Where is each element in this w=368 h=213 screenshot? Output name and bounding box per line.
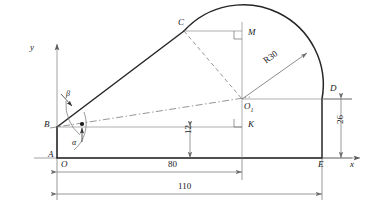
point-label-A: A: [48, 150, 54, 159]
point-label-K: K: [248, 120, 254, 129]
angle-label-beta: β: [66, 90, 70, 98]
construction-lines: [57, 22, 352, 158]
node-dot: [80, 122, 84, 126]
centerlines: [50, 97, 250, 128]
origin-label: O: [61, 160, 68, 169]
point-label-D: D: [330, 84, 337, 93]
dimension-label-12: 12: [184, 125, 193, 134]
angle-label-alpha: α: [72, 139, 76, 147]
centerline-B-O1: [50, 97, 250, 128]
arc-R30: [184, 5, 323, 99]
line-C-O1: [184, 31, 242, 99]
dimension-label-110: 110: [178, 182, 191, 191]
right-angle-markers: [234, 31, 242, 127]
point-label-M: M: [248, 28, 256, 37]
point-label-B: B: [44, 120, 50, 129]
curve-BC: [57, 31, 184, 127]
right-angle-K: [234, 119, 242, 127]
y-axis-label: y: [30, 43, 34, 52]
point-label-C: C: [178, 18, 184, 27]
dimension-label-26: 26: [336, 115, 345, 124]
x-axis-label: x: [350, 160, 354, 169]
dashed-lines: [184, 31, 242, 99]
point-label-O1: O1: [244, 102, 254, 113]
dimension-label-80: 80: [168, 160, 177, 169]
angle-arc-beta: [66, 101, 80, 135]
angle-arrows: [61, 94, 82, 142]
right-angle-M: [234, 31, 242, 39]
point-label-E: E: [318, 160, 324, 169]
axis-group: [34, 44, 360, 158]
technical-drawing: A B C M O1 K D E O y x α β 80 110 12 26 …: [0, 0, 368, 213]
dimension-lines: [57, 99, 352, 200]
